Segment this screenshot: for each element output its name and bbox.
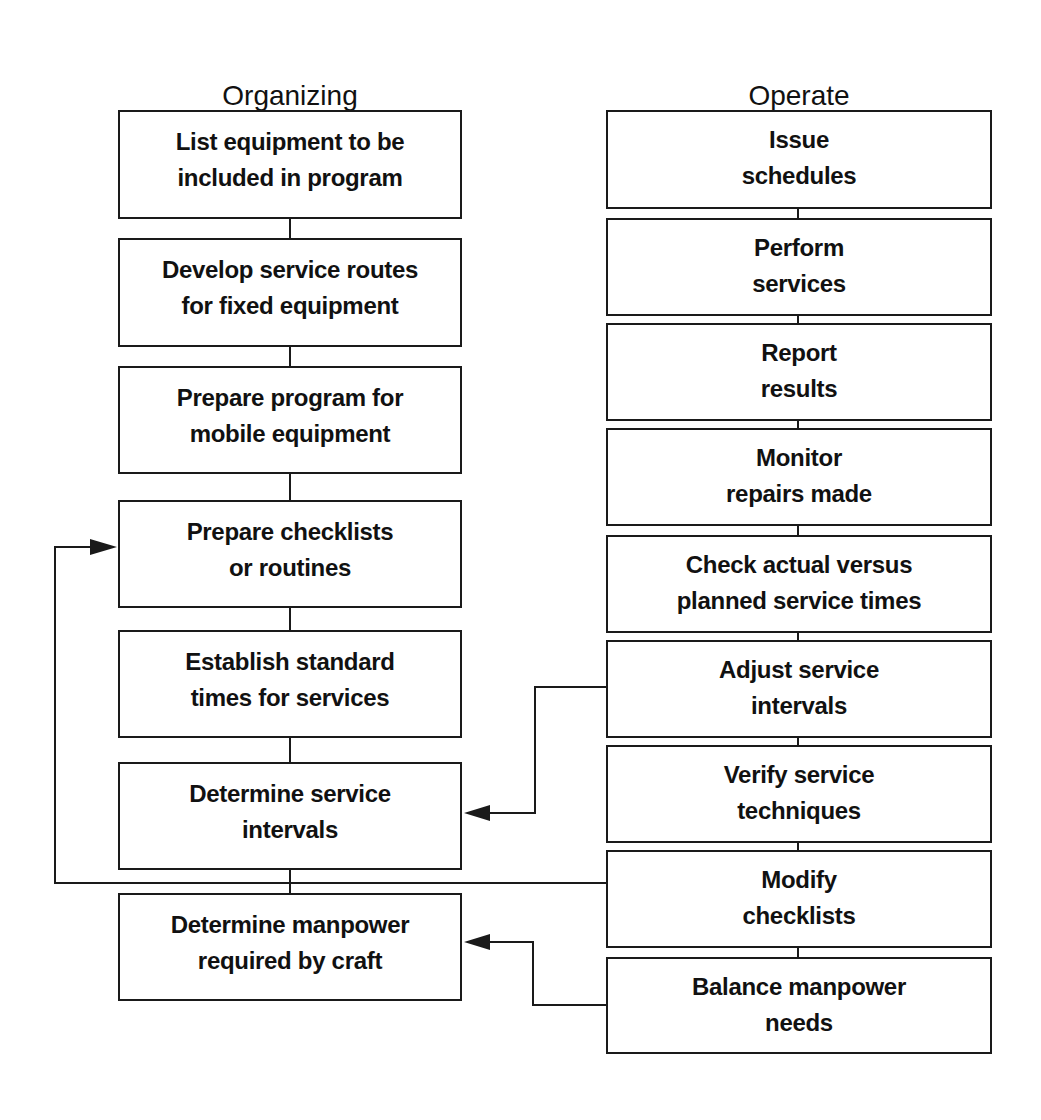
step-prepare-program-mobile: Prepare program for mobile equipment bbox=[118, 366, 462, 474]
step-establish-standard-times: Establish standard times for services bbox=[118, 630, 462, 738]
step-monitor-repairs: Monitor repairs made bbox=[606, 428, 992, 526]
step-label: Establish standard times for services bbox=[185, 632, 394, 716]
arrowhead-icon bbox=[90, 539, 117, 555]
step-label: Issue schedules bbox=[742, 112, 857, 194]
step-check-actual-vs-planned: Check actual versus planned service time… bbox=[606, 535, 992, 633]
step-modify-checklists: Modify checklists bbox=[606, 850, 992, 948]
step-label: Perform services bbox=[752, 220, 846, 302]
step-label: Monitor repairs made bbox=[726, 430, 872, 512]
step-label: Prepare checklists or routines bbox=[187, 502, 394, 586]
step-issue-schedules: Issue schedules bbox=[606, 110, 992, 209]
step-label: Prepare program for mobile equipment bbox=[177, 368, 403, 452]
step-develop-service-routes: Develop service routes for fixed equipme… bbox=[118, 238, 462, 347]
arrowhead-icon bbox=[464, 805, 490, 821]
step-determine-manpower: Determine manpower required by craft bbox=[118, 893, 462, 1001]
step-label: Determine service intervals bbox=[189, 764, 391, 848]
feedback-arrow-adjust bbox=[485, 687, 606, 813]
step-report-results: Report results bbox=[606, 323, 992, 421]
step-label: Determine manpower required by craft bbox=[171, 895, 410, 979]
step-adjust-service-intervals: Adjust service intervals bbox=[606, 640, 992, 738]
step-label: Adjust service intervals bbox=[719, 642, 879, 724]
step-label: Check actual versus planned service time… bbox=[677, 537, 921, 619]
step-label: Report results bbox=[761, 325, 838, 407]
step-label: List equipment to be included in program bbox=[176, 112, 405, 196]
step-verify-service-techniques: Verify service techniques bbox=[606, 745, 992, 843]
step-label: Balance manpower needs bbox=[692, 959, 906, 1041]
step-label: Modify checklists bbox=[742, 852, 855, 934]
arrowhead-icon bbox=[464, 934, 490, 950]
feedback-arrow-balance bbox=[485, 942, 606, 1005]
step-prepare-checklists: Prepare checklists or routines bbox=[118, 500, 462, 608]
step-balance-manpower: Balance manpower needs bbox=[606, 957, 992, 1054]
step-perform-services: Perform services bbox=[606, 218, 992, 316]
step-label: Verify service techniques bbox=[724, 747, 875, 829]
step-list-equipment: List equipment to be included in program bbox=[118, 110, 462, 219]
step-label: Develop service routes for fixed equipme… bbox=[162, 240, 418, 324]
step-determine-service-intervals: Determine service intervals bbox=[118, 762, 462, 870]
